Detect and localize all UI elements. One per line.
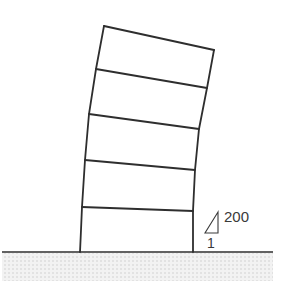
building-frame bbox=[80, 26, 214, 252]
drift-rise-label: 200 bbox=[224, 208, 249, 225]
left-column bbox=[80, 26, 104, 252]
floor-beam-4 bbox=[89, 114, 199, 129]
floor-beam-3 bbox=[85, 160, 195, 170]
drift-ratio-indicator: 200 1 bbox=[205, 208, 249, 251]
slope-triangle-icon bbox=[205, 212, 218, 233]
drift-run-label: 1 bbox=[207, 235, 215, 251]
right-column bbox=[193, 50, 214, 252]
building-drift-diagram: 200 1 bbox=[0, 0, 297, 281]
floor-beam-2 bbox=[82, 207, 193, 211]
ground bbox=[2, 252, 273, 281]
roof-beam bbox=[104, 26, 214, 50]
floor-beam-5 bbox=[96, 69, 207, 88]
ground-hatch bbox=[2, 253, 273, 281]
